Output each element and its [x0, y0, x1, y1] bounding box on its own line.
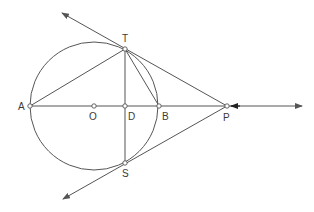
point-T	[123, 47, 127, 51]
point-A	[28, 104, 32, 108]
point-label-D: D	[128, 111, 135, 122]
point-D	[123, 104, 127, 108]
point-label-T: T	[122, 33, 128, 44]
point-label-P: P	[223, 112, 230, 123]
tangent-PT	[62, 13, 227, 106]
segment-AT	[30, 49, 125, 106]
tangent-PS	[63, 106, 227, 199]
point-O	[92, 104, 96, 108]
point-label-B: B	[162, 111, 169, 122]
point-label-A: A	[18, 101, 25, 112]
point-P	[225, 104, 229, 108]
point-label-O: O	[89, 111, 97, 122]
geometry-diagram: AODBPTS	[0, 0, 314, 212]
point-B	[157, 104, 161, 108]
point-S	[123, 161, 127, 165]
point-label-S: S	[122, 168, 129, 179]
